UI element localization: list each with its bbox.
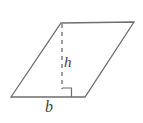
parallelogram-diagram-svg [0, 0, 143, 123]
height-label: h [64, 55, 72, 70]
figure-background [0, 0, 143, 123]
geometry-figure: h b [0, 0, 143, 123]
base-label: b [45, 99, 53, 115]
